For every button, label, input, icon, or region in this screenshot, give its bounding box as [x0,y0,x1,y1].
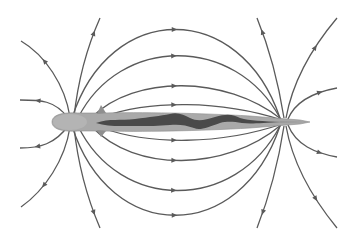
diagram-canvas [0,0,357,241]
field-line-tail-up-2 [286,18,337,118]
arrow-icon [172,27,178,32]
fish-head [53,114,87,130]
arrow-icon [91,30,98,37]
field-line-head-down-2 [21,127,70,207]
arrow-icon [172,213,178,218]
field-line-tail-down-3 [288,125,337,157]
field-line-head-up-2 [21,41,70,117]
field-line-tail-up-3 [288,88,337,119]
arrow-icon [316,149,323,156]
arrow-icon [312,195,319,202]
arrow-icon [260,209,267,216]
field-lines-diagram [0,0,357,241]
arrow-icon [171,138,177,143]
arrow-icon [259,28,266,35]
field-line-bot-1 [72,126,280,215]
arrow-icon [171,188,177,193]
arrow-icon [171,158,177,163]
arrow-icon [171,53,177,58]
arrow-icon [91,209,98,216]
arrow-icon [171,102,177,107]
arrow-icon [171,83,177,88]
arrow-icon [317,89,324,95]
field-line-tail-down-2 [286,126,337,228]
arrow-icon [35,98,41,104]
